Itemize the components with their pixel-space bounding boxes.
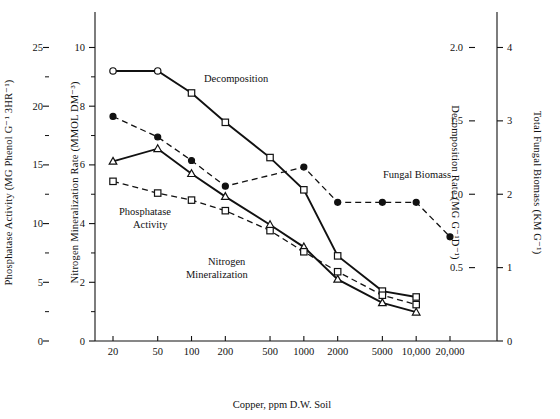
x-tick-label: 20 xyxy=(108,346,119,357)
y-tick-label: 0.5 xyxy=(450,262,463,273)
data-point xyxy=(110,68,116,74)
y-tick-label: 4 xyxy=(507,42,513,53)
data-point xyxy=(413,199,419,205)
data-point xyxy=(267,227,273,233)
data-point xyxy=(222,207,228,213)
multi-axis-line-chart: 205010020050010002000500010,00020,000Cop… xyxy=(0,0,560,419)
y-axis-title: Total Fungal Biomass (KM G⁻¹) xyxy=(531,111,543,255)
y-tick-label: 4 xyxy=(80,218,86,229)
series-line xyxy=(113,181,416,304)
y-tick-label: 6 xyxy=(80,159,85,170)
labels-layer: DecompositionFungal BiomassPhosphataseAc… xyxy=(119,73,451,280)
data-point xyxy=(154,145,162,152)
y-tick-label: 25 xyxy=(33,42,44,53)
series-layer xyxy=(109,68,453,315)
y-axis-fungal: 01234Total Fungal Biomass (KM G⁻¹) xyxy=(497,12,543,347)
data-point xyxy=(188,197,194,203)
y-tick-label: 2.0 xyxy=(450,42,463,53)
y-axis-title: Phosphatase Activity (MG Phenol G⁻¹ 3HR⁻… xyxy=(3,79,15,285)
y-tick-label: 8 xyxy=(80,101,85,112)
data-point xyxy=(222,193,230,200)
data-point xyxy=(335,199,341,205)
y-axis-nitrogen: 0246810Nitrogen Mineralization Rate (MMO… xyxy=(69,12,95,347)
y-tick-label: 10 xyxy=(33,218,44,229)
data-point xyxy=(155,68,161,74)
x-tick-label: 500 xyxy=(262,346,278,357)
y-tick-label: 2 xyxy=(80,277,85,288)
axes-layer: 205010020050010002000500010,00020,000Cop… xyxy=(3,12,543,410)
y-tick-label: 10 xyxy=(75,42,86,53)
data-point xyxy=(222,119,228,125)
series-line xyxy=(113,71,416,297)
y-axis-phosphatase: 0510152025Phosphatase Activity (MG Pheno… xyxy=(3,42,49,347)
data-point xyxy=(110,178,116,184)
data-point xyxy=(301,249,307,255)
x-tick-label: 1000 xyxy=(293,346,314,357)
x-axis: 205010020050010002000500010,00020,000Cop… xyxy=(95,336,497,410)
y-tick-label: 2 xyxy=(507,189,512,200)
data-point xyxy=(334,269,340,275)
data-point xyxy=(155,134,161,140)
ann-nitrogen-1: Nitrogen xyxy=(208,256,246,267)
series-decomposition xyxy=(110,68,420,300)
y-tick-label: 20 xyxy=(33,101,44,112)
x-tick-label: 200 xyxy=(217,346,233,357)
y-tick-label: 1 xyxy=(507,262,512,273)
x-tick-label: 5000 xyxy=(372,346,393,357)
ann-decomposition: Decomposition xyxy=(204,73,269,84)
data-point xyxy=(413,301,419,307)
x-tick-label: 10,000 xyxy=(402,346,431,357)
data-point xyxy=(301,164,307,170)
x-tick-label: 2000 xyxy=(327,346,348,357)
y-tick-label: 3 xyxy=(507,115,512,126)
data-point xyxy=(189,157,195,163)
series-line xyxy=(113,149,416,313)
data-point xyxy=(267,154,273,160)
ann-fungal: Fungal Biomass xyxy=(383,169,451,180)
ann-phosphatase-2: Activity xyxy=(133,219,168,230)
y-tick-label: 0 xyxy=(80,336,85,347)
data-point xyxy=(301,187,307,193)
y-tick-label: 15 xyxy=(33,159,44,170)
data-point xyxy=(379,292,385,298)
data-point xyxy=(447,234,453,240)
y-tick-label: 5 xyxy=(38,277,43,288)
data-point xyxy=(188,90,194,96)
series-phosphatase-activity xyxy=(110,178,420,308)
x-tick-label: 100 xyxy=(184,346,200,357)
ann-nitrogen-2: Mineralization xyxy=(186,269,249,280)
data-point xyxy=(110,113,116,119)
x-axis-title: Copper, ppm D.W. Soil xyxy=(233,399,331,410)
y-axis-title: Nitrogen Mineralization Rate (MMOL DM⁻³) xyxy=(69,81,81,284)
data-point xyxy=(222,183,228,189)
data-point xyxy=(155,190,161,196)
data-point xyxy=(379,199,385,205)
y-tick-label: 0 xyxy=(38,336,43,347)
data-point xyxy=(334,253,340,259)
x-tick-label: 20,000 xyxy=(436,346,465,357)
x-tick-label: 50 xyxy=(152,346,163,357)
y-tick-label: 0 xyxy=(507,336,512,347)
ann-phosphatase-1: Phosphatase xyxy=(119,206,171,217)
data-point xyxy=(413,294,419,300)
chart-figure: 205010020050010002000500010,00020,000Cop… xyxy=(0,0,560,419)
